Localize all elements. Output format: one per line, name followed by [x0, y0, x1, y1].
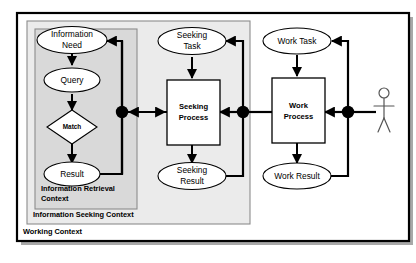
diagram-canvas: Information Need Query Match Result Seek…	[0, 0, 416, 263]
node-match-label: Match	[63, 123, 82, 130]
node-seeking-process-label-line2: Process	[179, 113, 209, 122]
node-seeking-result-label-line1: Seeking	[177, 165, 208, 175]
information-seeking-context-label: Information Seeking Context	[33, 210, 134, 219]
node-information-need-label-line2: Need	[62, 40, 82, 50]
node-work-process-label-line1: Work	[289, 101, 309, 110]
node-seeking-result-label-line2: Result	[180, 176, 204, 186]
working-context-label: Working Context	[23, 227, 83, 236]
node-work-process[interactable]	[272, 78, 325, 143]
information-retrieval-context-label-line2: Context	[41, 194, 69, 203]
junction-work-dot[interactable]	[342, 106, 354, 118]
junction-seeking-dot[interactable]	[237, 106, 249, 118]
node-work-result-label: Work Result	[274, 171, 320, 181]
node-seeking-process-label-line1: Seeking	[179, 102, 208, 111]
node-seeking-task-label-line1: Seeking	[177, 30, 208, 40]
diagram-svg: Information Need Query Match Result Seek…	[0, 0, 416, 263]
node-seeking-task-label-line2: Task	[183, 41, 201, 51]
node-work-task-label: Work Task	[278, 36, 318, 46]
information-retrieval-context-label-line1: Information Retrieval	[41, 184, 115, 193]
node-work-process-label-line2: Process	[284, 112, 314, 121]
node-query-label: Query	[61, 75, 85, 85]
node-result-label: Result	[60, 169, 84, 179]
node-information-need-label-line1: Information	[51, 29, 93, 39]
junction-retrieval-dot[interactable]	[116, 106, 128, 118]
